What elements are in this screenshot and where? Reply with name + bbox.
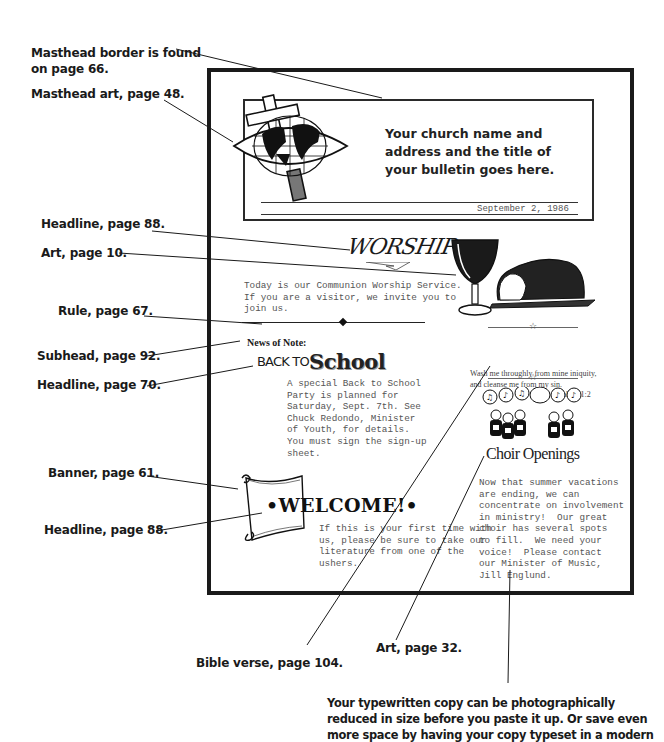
decorative-rule xyxy=(242,322,425,323)
headline-back-to: BACK TO xyxy=(257,354,309,369)
callout-art-communion: Art, page 10. xyxy=(41,245,127,261)
masthead-rule-bottom xyxy=(261,214,578,215)
callout-headline-school: Headline, page 70. xyxy=(37,377,161,393)
welcome-body: If this is your first time with us, plea… xyxy=(319,523,492,569)
callout-masthead-art: Masthead art, page 48. xyxy=(31,86,184,102)
worship-arrow-icon xyxy=(366,262,410,270)
headline-school: School xyxy=(309,349,385,374)
headline-worship: WORSHIP xyxy=(345,234,458,259)
svg-text:♫: ♫ xyxy=(518,389,525,398)
worship-body: Today is our Communion Worship Service. … xyxy=(244,280,462,315)
masthead-title: Your church name and address and the tit… xyxy=(385,125,575,179)
globe-cross-icon xyxy=(232,90,352,205)
svg-text:♪: ♪ xyxy=(571,391,576,400)
callout-rule: Rule, page 67. xyxy=(58,303,153,319)
callout-bible-verse: Bible verse, page 104. xyxy=(196,655,343,671)
news-body: A special Back to School Party is planne… xyxy=(287,378,426,459)
callout-art-choir: Art, page 32. xyxy=(376,640,462,656)
callout-headline-worship: Headline, page 88. xyxy=(41,216,165,232)
subhead-news-of-note: News of Note: xyxy=(247,337,306,348)
callout-banner: Banner, page 61. xyxy=(48,465,159,481)
masthead-date: September 2, 1986 xyxy=(477,204,569,214)
headline-welcome: •WELCOME!• xyxy=(266,494,418,516)
masthead-rule-top xyxy=(261,202,578,203)
svg-text:♪: ♪ xyxy=(503,391,508,400)
headline-choir-openings: Choir Openings xyxy=(486,445,579,463)
choir-singers-icon: ♫♪♫ ♪♪ xyxy=(482,387,590,447)
svg-text:♪: ♪ xyxy=(555,391,560,400)
callout-subhead: Subhead, page 92. xyxy=(37,348,160,364)
star-icon: ☆ xyxy=(529,322,537,331)
callout-masthead-border: Masthead border is found on page 66. xyxy=(31,45,211,77)
callout-headline-welcome: Headline, page 88. xyxy=(44,522,168,538)
choir-body: Now that summer vacations are ending, we… xyxy=(479,477,624,581)
footnote-text: Your typewritten copy can be photographi… xyxy=(327,695,657,742)
svg-text:♫: ♫ xyxy=(486,393,493,402)
communion-chalice-bread-icon xyxy=(450,238,600,318)
star-icon: ☆ xyxy=(529,373,537,382)
